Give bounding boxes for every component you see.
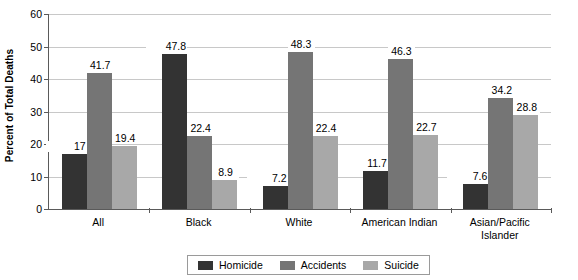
legend-swatch-accidents [280, 261, 295, 270]
y-axis-tick-label: 40 [16, 73, 42, 85]
y-axis-tick-mark [44, 209, 48, 210]
x-axis-category-label-line: American Indian [349, 216, 449, 229]
x-axis-tick-mark [350, 208, 351, 213]
bar-group: 7.248.322.4 [263, 14, 338, 209]
legend-swatch-homicide [198, 261, 213, 270]
legend-item-label: Homicide [219, 259, 263, 271]
x-axis-category-label-line: All [48, 216, 148, 229]
bar-suicide-asian-pacific-islander[interactable] [513, 115, 538, 209]
y-axis-tick-mark [44, 79, 48, 80]
y-axis-tick-mark [44, 47, 48, 48]
x-axis-category-label: All [48, 216, 148, 229]
bar-group: 7.634.228.8 [463, 14, 538, 209]
x-axis-category-label-line: Islander [450, 229, 550, 242]
bar-accidents-american-indian[interactable] [388, 59, 413, 209]
bar-homicide-asian-pacific-islander[interactable] [463, 184, 488, 209]
legend-item-label: Accidents [301, 259, 347, 271]
legend-item[interactable]: Homicide [198, 259, 263, 271]
y-axis-tick-label: 50 [16, 41, 42, 53]
bar-value-label: 17 [46, 141, 87, 152]
x-axis-tick-mark [451, 208, 452, 213]
legend-item-label: Suicide [384, 259, 418, 271]
x-axis-tick-mark [149, 208, 150, 213]
y-axis-tick-mark [44, 112, 48, 113]
x-axis-category-label: Black [148, 216, 248, 229]
bar-homicide-white[interactable] [263, 186, 288, 209]
bar-suicide-white[interactable] [313, 136, 338, 209]
bar-value-label: 7.6 [447, 171, 488, 182]
y-axis-tick-mark [44, 177, 48, 178]
y-axis-tick-label: 0 [16, 203, 42, 215]
bar-group: 47.822.48.9 [162, 14, 237, 209]
bar-homicide-american-indian[interactable] [363, 171, 388, 209]
y-axis-tick-label: 60 [16, 8, 42, 20]
y-axis-tick-labels: 0102030405060 [12, 14, 42, 209]
bar-value-label: 46.3 [388, 46, 415, 57]
bar-suicide-all[interactable] [112, 146, 137, 209]
bar-suicide-american-indian[interactable] [413, 135, 438, 209]
y-axis-tick-label: 10 [16, 171, 42, 183]
bar-homicide-all[interactable] [62, 154, 87, 209]
bar-value-label: 11.7 [347, 158, 388, 169]
y-axis-tick-mark [44, 14, 48, 15]
bar-accidents-black[interactable] [187, 136, 212, 209]
bar-suicide-black[interactable] [212, 180, 237, 209]
bar-value-label: 34.2 [488, 85, 515, 96]
bar-value-label: 41.7 [87, 60, 114, 71]
bar-value-label: 19.4 [112, 133, 139, 144]
bar-value-label: 22.4 [313, 123, 340, 134]
bar-homicide-black[interactable] [162, 54, 187, 209]
legend-swatch-suicide [363, 261, 378, 270]
plot-area: 1741.719.447.822.48.97.248.322.411.746.3… [48, 14, 551, 210]
legend-item[interactable]: Accidents [280, 259, 347, 271]
bar-group: 1741.719.4 [62, 14, 137, 209]
x-axis-category-label-line: Asian/Pacific [450, 216, 550, 229]
x-axis-category-labels: AllBlackWhiteAmerican IndianAsian/Pacifi… [48, 216, 550, 250]
bar-value-label: 8.9 [212, 167, 239, 178]
bar-value-label: 48.3 [288, 39, 315, 50]
x-axis-category-label-line: White [249, 216, 349, 229]
x-axis-category-label: American Indian [349, 216, 449, 229]
legend-item[interactable]: Suicide [363, 259, 418, 271]
bar-value-label: 28.8 [513, 102, 540, 113]
y-axis-tick-label: 20 [16, 138, 42, 150]
x-axis-tick-mark [250, 208, 251, 213]
x-axis-tick-mark [551, 208, 552, 213]
bar-accidents-asian-pacific-islander[interactable] [488, 98, 513, 209]
x-axis-category-label: Asian/PacificIslander [450, 216, 550, 242]
bar-value-label: 47.8 [146, 41, 187, 52]
bar-accidents-white[interactable] [288, 52, 313, 209]
x-axis-category-label-line: Black [148, 216, 248, 229]
y-axis-tick-label: 30 [16, 106, 42, 118]
bar-value-label: 22.7 [413, 122, 440, 133]
chart-legend: HomicideAccidentsSuicide [187, 255, 430, 275]
bar-chart: Percent of Total Deaths 0102030405060 17… [0, 0, 578, 280]
bar-value-label: 22.4 [187, 123, 214, 134]
x-axis-category-label: White [249, 216, 349, 229]
bar-accidents-all[interactable] [87, 73, 112, 209]
bar-group: 11.746.322.7 [363, 14, 438, 209]
bar-value-label: 7.2 [247, 173, 288, 184]
